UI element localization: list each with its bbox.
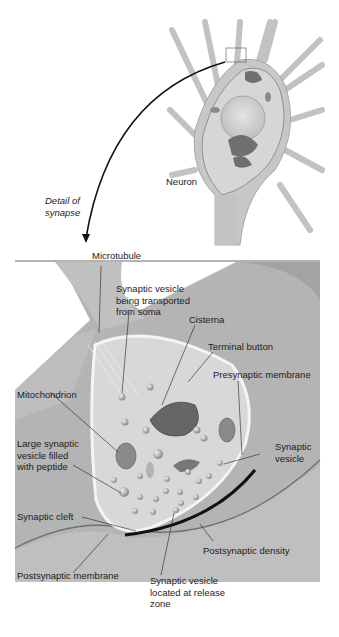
presynaptic-membrane-label: Presynaptic membrane <box>213 369 311 381</box>
large-vesicle-label: Large synaptic vesicle filled with pepti… <box>17 438 79 473</box>
detail-of-synapse-label: Detail of synapse <box>45 195 80 218</box>
microtubule-label: Microtubule <box>92 250 141 262</box>
arrowhead-icon <box>82 234 90 243</box>
postsynaptic-membrane-label: Postsynaptic membrane <box>17 570 119 582</box>
postsynaptic-density-label: Postsynaptic density <box>203 545 290 557</box>
terminal-button-label: Terminal button <box>208 341 273 353</box>
vesicle-release-zone-label: Synaptic vesicle located at release zone <box>150 575 225 610</box>
synaptic-cleft-label: Synaptic cleft <box>17 511 74 523</box>
cisterna-label: Cisterna <box>189 314 224 326</box>
mitochondrion-label: Mitochondrion <box>17 389 77 401</box>
synapse-illustration <box>0 0 339 637</box>
vesicle-transported-label: Synaptic vesicle being transported from … <box>116 283 190 318</box>
synaptic-vesicle-label: Synaptic vesicle <box>275 441 311 464</box>
neuron-label: Neuron <box>166 176 197 188</box>
neuron-image <box>170 20 322 245</box>
